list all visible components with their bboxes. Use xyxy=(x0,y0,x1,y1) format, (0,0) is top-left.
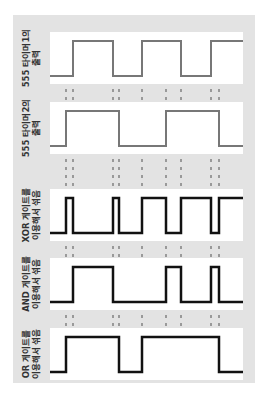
guide-dash xyxy=(112,323,114,326)
guide-dash xyxy=(218,159,220,162)
guide-dash xyxy=(65,315,67,318)
guide-dash xyxy=(65,183,67,186)
guide-dash xyxy=(210,323,212,326)
panel-timer2: 555 타이머2의출력 xyxy=(21,99,243,158)
guide-dash xyxy=(180,246,182,249)
guide-dash xyxy=(210,183,212,186)
guide-dash xyxy=(112,315,114,318)
guide-dash xyxy=(72,246,74,249)
panel-timer1: 555 타이머1의출력 xyxy=(21,29,243,88)
guide-dash xyxy=(118,183,120,186)
guide-dash xyxy=(165,254,167,257)
guide-dash xyxy=(72,167,74,170)
guide-dash xyxy=(218,89,220,92)
guide-dash xyxy=(141,323,143,326)
guide-dash xyxy=(118,175,120,178)
label-and: AND 게이트를이용해서 섞음 xyxy=(21,256,41,312)
guide-dash xyxy=(118,89,120,92)
guide-dash xyxy=(218,246,220,249)
guide-dash xyxy=(218,97,220,100)
timing-diagram-canvas: 555 타이머1의출력555 타이머2의출력XOR 게이트를이용해서 섞음AND… xyxy=(0,0,265,411)
guide-dash xyxy=(218,323,220,326)
guide-dash xyxy=(118,254,120,257)
guide-dash xyxy=(210,159,212,162)
guide-dash xyxy=(112,246,114,249)
guide-dash xyxy=(180,89,182,92)
guide-dash xyxy=(141,89,143,92)
guide-dash xyxy=(141,315,143,318)
guide-dash xyxy=(210,315,212,318)
guide-dash xyxy=(72,175,74,178)
guide-dash xyxy=(165,246,167,249)
guide-dash xyxy=(112,167,114,170)
guide-dash xyxy=(118,315,120,318)
guide-dash xyxy=(165,315,167,318)
guide-dash xyxy=(65,254,67,257)
guide-dash xyxy=(118,246,120,249)
guide-dash xyxy=(118,323,120,326)
label-xor: XOR 게이트를이용해서 섞음 xyxy=(21,188,41,243)
guide-dash xyxy=(218,183,220,186)
guide-dash xyxy=(165,183,167,186)
panel-timer1-area xyxy=(50,32,243,84)
guide-dash xyxy=(165,175,167,178)
guide-dash xyxy=(210,175,212,178)
label-or: OR 게이트를이용해서 섞음 xyxy=(21,329,41,380)
guide-dash xyxy=(210,254,212,257)
guide-dash xyxy=(180,183,182,186)
guide-dash xyxy=(165,159,167,162)
guide-dash xyxy=(112,183,114,186)
guide-dash xyxy=(210,246,212,249)
guide-dash xyxy=(118,167,120,170)
guide-dash xyxy=(65,323,67,326)
guide-dash xyxy=(65,159,67,162)
guide-dash xyxy=(180,159,182,162)
guide-dash xyxy=(141,254,143,257)
guide-dash xyxy=(65,167,67,170)
guide-dash xyxy=(118,159,120,162)
guide-dash xyxy=(112,97,114,100)
guide-dash xyxy=(72,254,74,257)
guide-dash xyxy=(165,89,167,92)
guide-dash xyxy=(112,89,114,92)
guide-dash xyxy=(180,97,182,100)
guide-dash xyxy=(165,323,167,326)
guide-dash xyxy=(180,323,182,326)
guide-dash xyxy=(65,89,67,92)
panel-and: AND 게이트를이용해서 섞음 xyxy=(21,256,243,312)
guide-dash xyxy=(72,183,74,186)
guide-dash xyxy=(72,315,74,318)
guide-dash xyxy=(218,167,220,170)
guide-dash xyxy=(218,254,220,257)
guide-dash xyxy=(210,97,212,100)
guide-dash xyxy=(65,175,67,178)
guide-dash xyxy=(141,159,143,162)
panel-xor: XOR 게이트를이용해서 섞음 xyxy=(21,188,243,243)
guide-dash xyxy=(165,97,167,100)
guide-dash xyxy=(210,167,212,170)
guide-dash xyxy=(141,175,143,178)
panel-or: OR 게이트를이용해서 섞음 xyxy=(21,328,243,380)
guide-dash xyxy=(112,254,114,257)
guide-dash xyxy=(72,323,74,326)
guide-dash xyxy=(210,89,212,92)
guide-dash xyxy=(218,175,220,178)
guide-dash xyxy=(180,315,182,318)
guide-dash xyxy=(112,159,114,162)
guide-dash xyxy=(72,159,74,162)
guide-dash xyxy=(180,175,182,178)
guide-dash xyxy=(218,315,220,318)
guide-dash xyxy=(72,89,74,92)
guide-dash xyxy=(141,246,143,249)
guide-dash xyxy=(165,167,167,170)
guide-dash xyxy=(141,97,143,100)
guide-dash xyxy=(112,175,114,178)
guide-dash xyxy=(65,97,67,100)
guide-dash xyxy=(118,97,120,100)
guide-dash xyxy=(141,167,143,170)
guide-dash xyxy=(180,254,182,257)
guide-dash xyxy=(72,97,74,100)
guide-dash xyxy=(180,167,182,170)
guide-dash xyxy=(65,246,67,249)
guide-dash xyxy=(141,183,143,186)
